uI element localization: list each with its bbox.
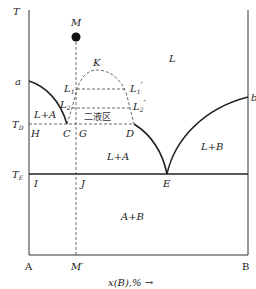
phase-diagram: T A B M′ x(B),% → TD TE M K a b H C G D … [0,0,256,289]
x-axis-label: x(B),% → [108,277,154,288]
point-l1-label: L1 [63,83,74,95]
point-j-label: J [79,178,86,189]
composition-mark-label: M′ [70,261,84,272]
region-l-plus-b: L+B [200,141,223,152]
point-e-label: E [162,178,171,189]
td-label: TD [12,119,24,131]
point-h-label: H [30,128,40,139]
point-i-label: I [33,178,39,189]
region-two-liquid: 二液区 [84,111,111,122]
liquidus-d-e [134,124,167,174]
point-k-label: K [92,57,101,68]
left-end-label: A [24,261,33,272]
point-a-label: a [15,76,21,87]
point-l2-prime-label: L2′ [132,98,146,113]
point-b-label: b [251,92,256,103]
right-end-label: B [242,261,249,272]
point-c-label: C [63,128,71,139]
region-liquid: L [168,53,176,64]
point-g-label: G [79,128,87,139]
point-d-label: D [125,128,134,139]
point-l2-label: L2 [59,99,71,111]
region-l-plus-a-upper: L+A [33,109,56,120]
tx-label: TE [12,169,24,181]
liquidus-e-b [167,97,248,174]
region-l-plus-a-lower: L+A [106,151,129,162]
region-a-plus-b: A+B [120,211,144,222]
point-m-dot [72,33,81,42]
point-l1-prime-label: L1′ [129,80,143,95]
y-axis-label: T [13,6,21,17]
point-m-label: M [70,17,82,28]
